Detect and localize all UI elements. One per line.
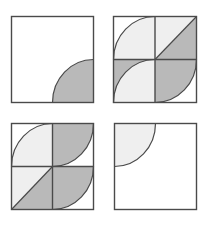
tile-cell — [53, 124, 94, 167]
tile-cell — [12, 124, 53, 167]
puzzle-figure — [0, 0, 215, 229]
panel-top-left — [12, 17, 94, 103]
panel-top-right — [114, 17, 197, 103]
tile-cell — [114, 60, 156, 103]
panel-bottom-right — [115, 124, 197, 210]
tile-cell — [12, 17, 94, 103]
tile-cell — [114, 17, 156, 60]
panel-bottom-left — [12, 124, 94, 210]
tile-cell — [155, 17, 197, 60]
tile-cell — [155, 60, 197, 103]
tile-cell — [12, 167, 53, 210]
tile-cell — [115, 124, 197, 210]
tile-cell — [53, 167, 94, 210]
